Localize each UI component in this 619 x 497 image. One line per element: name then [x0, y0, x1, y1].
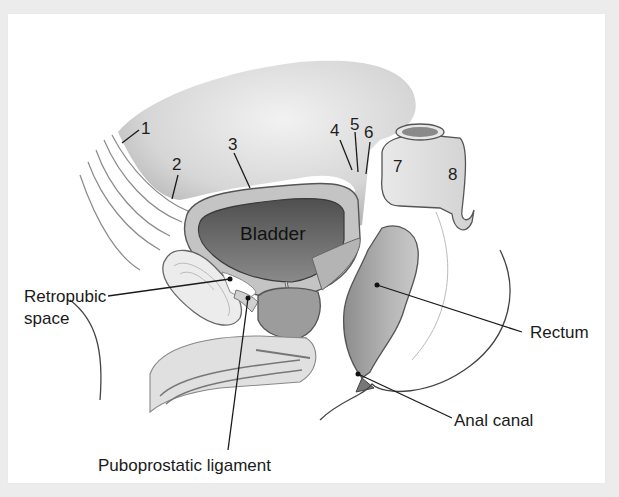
retropubic-space-label-line2: space: [24, 309, 69, 328]
label-8: 8: [448, 165, 457, 184]
internal-curve: [412, 212, 448, 360]
label-5: 5: [350, 115, 359, 134]
label-2: 2: [172, 155, 181, 174]
sigmoid-colon: [382, 124, 474, 230]
penile-structures: [150, 336, 316, 412]
label-3: 3: [228, 135, 237, 154]
label-4: 4: [330, 121, 339, 140]
rectum-label: Rectum: [530, 323, 589, 342]
label-6: 6: [364, 123, 373, 142]
bladder-label: Bladder: [240, 223, 306, 244]
label-1: 1: [141, 119, 150, 138]
puboprostatic-ligament-label: Puboprostatic ligament: [98, 456, 271, 475]
retropubic-space-label-line1: Retropubic: [24, 287, 107, 306]
label-7: 7: [393, 157, 402, 176]
anatomy-diagram: 1 2 3 4 5 6 7 8 Bladder Retropubic space…: [0, 0, 619, 497]
anal-canal-label: Anal canal: [454, 411, 533, 430]
